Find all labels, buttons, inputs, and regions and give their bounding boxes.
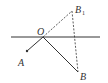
point-A-dot bbox=[26, 50, 28, 52]
label-B1-subscript: 1 bbox=[82, 10, 85, 16]
label-O: O bbox=[37, 26, 44, 37]
segment-OB1 bbox=[43, 11, 72, 37]
segment-OA bbox=[27, 37, 43, 51]
segment-B1B bbox=[72, 11, 78, 72]
label-B: B bbox=[80, 71, 86, 82]
label-B1: B bbox=[75, 4, 81, 15]
label-A: A bbox=[17, 57, 25, 68]
segment-OB bbox=[43, 37, 78, 72]
geometry-diagram: O A B B 1 bbox=[0, 0, 108, 83]
